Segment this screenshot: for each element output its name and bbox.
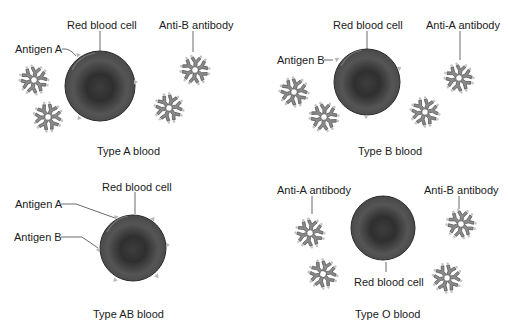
antigen-a-label: Antigen A <box>15 198 62 210</box>
anti-b-antibody-icon <box>16 63 53 98</box>
anti-b-antibody-icon <box>427 258 468 298</box>
red-blood-cell-icon <box>65 51 135 121</box>
antigen-b-label: Antigen B <box>277 54 325 66</box>
panel-type-b <box>275 31 478 133</box>
type-o-caption: Type O blood <box>355 308 420 320</box>
blood-type-diagram <box>0 0 508 328</box>
red-blood-cell-icon <box>100 215 166 281</box>
anti-b-antibody-icon <box>149 89 189 128</box>
antigen-b-label: Antigen B <box>14 231 62 243</box>
anti-b-antibody-label: Anti-B antibody <box>424 184 499 196</box>
panel-type-ab <box>61 192 170 284</box>
type-a-caption: Type A blood <box>97 145 160 157</box>
red-blood-cell-label: Red blood cell <box>67 19 137 31</box>
type-b-caption: Type B blood <box>358 145 422 157</box>
anti-a-antibody-icon <box>291 215 328 251</box>
red-blood-cell-icon <box>351 196 415 260</box>
anti-a-antibody-icon <box>307 101 341 133</box>
antigen-a-label: Antigen A <box>15 43 62 55</box>
type-ab-caption: Type AB blood <box>93 308 164 320</box>
red-blood-cell-icon <box>334 49 400 115</box>
anti-a-antibody-label: Anti-A antibody <box>426 19 500 31</box>
anti-b-antibody-label: Anti-B antibody <box>159 19 234 31</box>
red-blood-cell-label: Red blood cell <box>354 276 424 288</box>
anti-b-antibody-icon <box>443 207 479 241</box>
antigen-b-leader-line <box>61 237 98 248</box>
anti-b-antibody-icon <box>27 97 69 137</box>
anti-a-antibody-label: Anti-A antibody <box>277 184 351 196</box>
anti-a-antibody-icon <box>441 61 478 96</box>
red-blood-cell-label: Red blood cell <box>102 181 172 193</box>
antigen-leader-line <box>62 49 76 56</box>
anti-b-antibody-icon <box>178 54 212 86</box>
anti-a-antibody-icon <box>303 255 343 293</box>
anti-a-antibody-icon <box>275 73 314 110</box>
red-blood-cell-label: Red blood cell <box>333 19 403 31</box>
antigen-a-leader-line <box>61 204 115 218</box>
anti-a-antibody-icon <box>405 93 445 132</box>
